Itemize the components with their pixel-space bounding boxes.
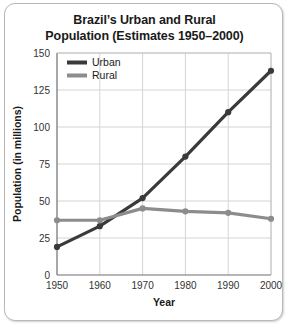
data-point-rural (140, 205, 146, 211)
data-point-urban (182, 154, 188, 160)
x-tick-label: 1970 (131, 280, 154, 291)
y-tick-label: 75 (39, 159, 51, 170)
data-series-group (54, 68, 274, 250)
data-point-rural (54, 217, 60, 223)
y-tick-label: 125 (33, 85, 50, 96)
chart-legend: UrbanRural (67, 56, 121, 81)
data-point-rural (268, 216, 274, 222)
x-tick-label: 1950 (46, 280, 69, 291)
legend-label-rural: Rural (92, 69, 117, 81)
y-tick-label: 50 (39, 196, 51, 207)
data-point-urban (225, 109, 231, 115)
y-tick-label: 25 (39, 233, 51, 244)
x-axis-title: Year (153, 296, 175, 308)
data-point-rural (97, 217, 103, 223)
data-point-urban (54, 244, 60, 250)
series-line-rural (57, 208, 271, 220)
y-tick-label: 150 (33, 48, 50, 59)
data-point-urban (97, 223, 103, 229)
data-point-rural (225, 210, 231, 216)
data-point-urban (140, 195, 146, 201)
x-tick-label: 1960 (89, 280, 112, 291)
data-point-urban (268, 68, 274, 74)
x-tick-label: 1990 (217, 280, 240, 291)
legend-label-urban: Urban (92, 56, 121, 68)
x-tick-label: 1980 (174, 280, 197, 291)
y-axis-title: Population (in millions) (11, 106, 23, 222)
plot-area-wrapper: 0255075100125150 19501960197019801990200… (5, 4, 284, 322)
data-point-rural (182, 208, 188, 214)
y-axis-tick-labels: 0255075100125150 (33, 48, 50, 281)
x-tick-label: 2000 (260, 280, 283, 291)
chart-card: Brazil’s Urban and Rural Population (Est… (4, 3, 283, 321)
y-tick-label: 0 (44, 270, 50, 281)
x-axis-tick-labels: 195019601970198019902000 (46, 280, 283, 291)
y-tick-label: 100 (33, 122, 50, 133)
line-chart-svg: 0255075100125150 19501960197019801990200… (5, 4, 284, 322)
